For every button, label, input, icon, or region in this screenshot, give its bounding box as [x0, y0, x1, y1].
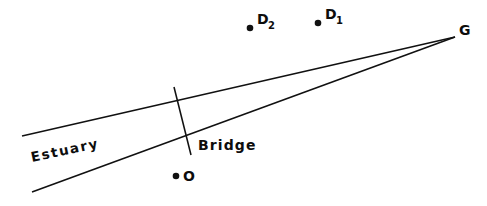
- point-marker-d2: [247, 25, 254, 32]
- diagram-canvas: D 2 D 1 O G Bridge Estuary: [0, 0, 487, 206]
- point-label-d2: D: [257, 11, 269, 27]
- point-marker-d1: [315, 20, 322, 27]
- point-label-d2-subscript: 2: [268, 20, 275, 31]
- point-label-d1: D: [325, 6, 337, 22]
- estuary-bank-lower-line: [32, 37, 455, 192]
- point-marker-o: [173, 173, 180, 180]
- point-label-d1-subscript: 1: [336, 15, 343, 26]
- feature-label-bridge: Bridge: [198, 137, 257, 153]
- feature-label-estuary: Estuary: [29, 135, 100, 165]
- estuary-bank-upper-line: [22, 37, 455, 136]
- estuary-bridge-diagram: D 2 D 1 O G Bridge Estuary: [0, 0, 487, 206]
- point-label-g: G: [459, 22, 471, 38]
- point-label-o: O: [183, 168, 195, 184]
